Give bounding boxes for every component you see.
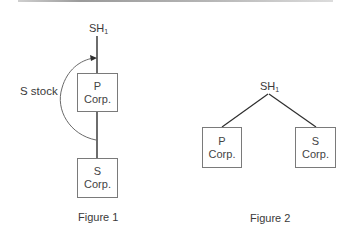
fig2-p-corp-box: P Corp. [202, 127, 242, 168]
box-line2: Corp. [84, 93, 111, 106]
fig1-caption: Figure 1 [78, 211, 118, 223]
box-line1: S [312, 135, 319, 148]
fig2-line-sh-to-s [269, 94, 316, 127]
box-line1: P [94, 80, 101, 93]
box-line2: Corp. [84, 178, 111, 191]
fig2-s-corp-box: S Corp. [295, 127, 336, 168]
fig1-shareholder-label: SH1 [89, 22, 108, 38]
fig2-shareholder-label: SH1 [260, 80, 279, 96]
box-line1: P [218, 135, 225, 148]
fig1-s-corp-box: S Corp. [77, 158, 118, 198]
box-line1: S [94, 165, 101, 178]
box-line2: Corp. [302, 148, 329, 161]
fig2-caption: Figure 2 [250, 212, 290, 224]
diagram-lines [0, 0, 361, 227]
fig1-p-corp-box: P Corp. [77, 73, 118, 112]
box-line2: Corp. [209, 148, 236, 161]
arrowhead-icon [90, 55, 97, 61]
fig2-line-sh-to-p [222, 94, 268, 127]
fig1-s-stock-label: S stock [20, 85, 58, 97]
